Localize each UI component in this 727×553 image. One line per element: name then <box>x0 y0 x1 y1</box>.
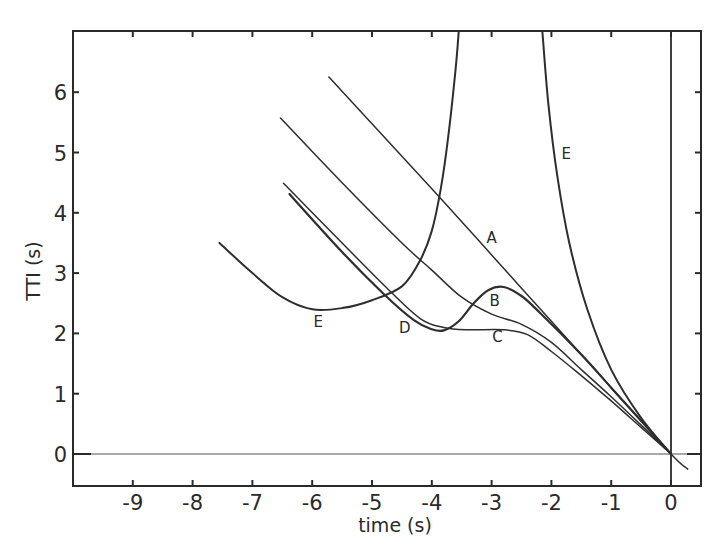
x-tick-label: -2 <box>541 491 562 515</box>
curve-label-a: A <box>486 229 497 247</box>
curve-label-c: C <box>492 328 502 346</box>
x-tick-label: -9 <box>122 491 143 515</box>
y-tick-label: 6 <box>54 81 67 105</box>
curve-a <box>329 77 688 469</box>
y-tick-label: 1 <box>54 383 67 407</box>
x-tick-label: -6 <box>302 491 323 515</box>
y-tick-label: 2 <box>54 322 67 346</box>
y-tick-label: 3 <box>54 262 67 286</box>
x-tick-label: -8 <box>182 491 203 515</box>
curve-label-b: B <box>489 292 499 310</box>
x-tick-label: -5 <box>362 491 383 515</box>
curve-label-e: E <box>562 145 571 163</box>
plot-border <box>73 31 701 486</box>
y-axis-ticks: 0123456 <box>54 81 701 467</box>
x-axis-label: time (s) <box>358 514 432 536</box>
y-tick-label: 5 <box>54 142 67 166</box>
y-tick-label: 4 <box>54 202 67 226</box>
x-tick-label: 0 <box>664 491 677 515</box>
curve-e <box>542 32 671 454</box>
curves <box>220 32 688 469</box>
curve-c <box>284 183 672 454</box>
y-axis-label: TTI (s) <box>22 241 44 301</box>
x-axis-ticks: -9-8-7-6-5-4-3-2-10 <box>122 31 677 515</box>
x-tick-label: -7 <box>242 491 263 515</box>
reference-lines <box>73 31 701 486</box>
curve-label-e: E <box>313 313 322 331</box>
x-tick-label: -1 <box>601 491 622 515</box>
tti-chart: -9-8-7-6-5-4-3-2-10 0123456 ABCDEE time … <box>0 0 727 553</box>
x-tick-label: -3 <box>481 491 502 515</box>
x-tick-label: -4 <box>421 491 442 515</box>
curve-label-d: D <box>399 319 411 337</box>
curve-d <box>290 194 672 454</box>
curve-e <box>220 32 459 310</box>
curve-b <box>281 118 672 454</box>
y-tick-label: 0 <box>54 443 67 467</box>
plot-frame <box>73 31 701 486</box>
